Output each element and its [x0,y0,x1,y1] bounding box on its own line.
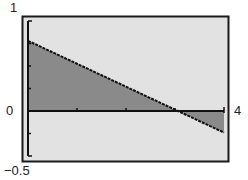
y-tick-label-zero: 0 [6,104,13,117]
y-tick-label-top: 1 [10,1,17,14]
y-tick-label-bottom: −0.5 [4,164,30,177]
chart [0,0,248,180]
x-tick-label-right: 4 [234,104,241,117]
